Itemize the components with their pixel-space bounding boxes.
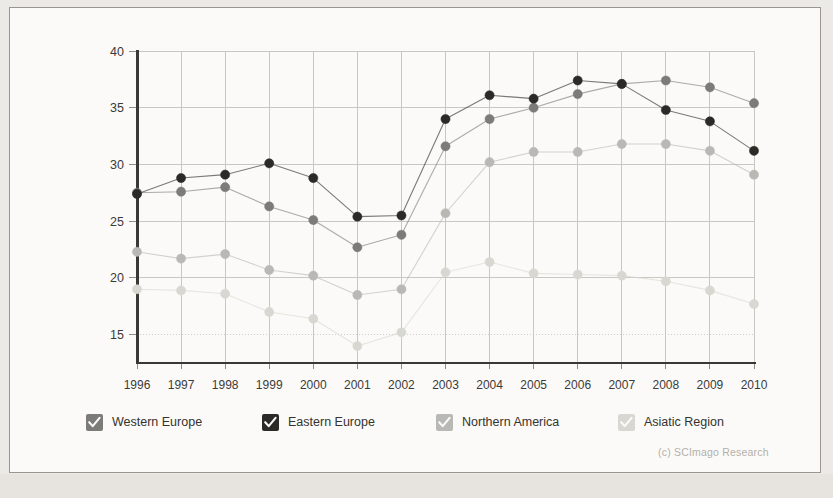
x-axis-tick-label: 1998 bbox=[212, 378, 239, 392]
data-point[interactable] bbox=[265, 202, 274, 211]
x-axis-tick-label: 2000 bbox=[300, 378, 327, 392]
checkbox-checked-icon[interactable] bbox=[436, 414, 453, 431]
data-point[interactable] bbox=[749, 99, 758, 108]
x-axis-tick-label: 1996 bbox=[124, 378, 151, 392]
legend-label: Asiatic Region bbox=[644, 415, 724, 429]
data-point[interactable] bbox=[221, 289, 230, 298]
data-point[interactable] bbox=[749, 146, 758, 155]
checkbox-checked-icon[interactable] bbox=[86, 414, 103, 431]
data-point[interactable] bbox=[617, 271, 626, 280]
data-point[interactable] bbox=[617, 139, 626, 148]
y-axis-tick-label: 15 bbox=[110, 328, 124, 342]
legend-item-asiatic-region[interactable]: Asiatic Region bbox=[618, 410, 724, 434]
x-axis-tick-label: 1999 bbox=[256, 378, 283, 392]
data-point[interactable] bbox=[529, 147, 538, 156]
data-point[interactable] bbox=[221, 170, 230, 179]
y-axis-tick-label: 35 bbox=[110, 101, 124, 115]
data-point[interactable] bbox=[485, 158, 494, 167]
data-point[interactable] bbox=[353, 290, 362, 299]
data-point[interactable] bbox=[661, 277, 670, 286]
legend-item-northern-america[interactable]: Northern America bbox=[436, 410, 559, 434]
data-point[interactable] bbox=[485, 91, 494, 100]
data-point[interactable] bbox=[176, 187, 185, 196]
data-point[interactable] bbox=[441, 209, 450, 218]
data-point[interactable] bbox=[397, 230, 406, 239]
data-point[interactable] bbox=[573, 147, 582, 156]
data-point[interactable] bbox=[705, 286, 714, 295]
data-point[interactable] bbox=[265, 265, 274, 274]
data-point[interactable] bbox=[705, 83, 714, 92]
data-point[interactable] bbox=[221, 183, 230, 192]
x-axis-tick-label: 2009 bbox=[697, 378, 724, 392]
page-bottom-shadow bbox=[0, 474, 833, 498]
legend-label: Eastern Europe bbox=[288, 415, 375, 429]
legend-label: Northern America bbox=[462, 415, 559, 429]
data-point[interactable] bbox=[573, 270, 582, 279]
data-point[interactable] bbox=[176, 173, 185, 182]
data-point[interactable] bbox=[265, 307, 274, 316]
screenshot-root: 1520253035401996199719981999200020012002… bbox=[0, 0, 833, 498]
data-point[interactable] bbox=[573, 90, 582, 99]
data-point[interactable] bbox=[705, 117, 714, 126]
data-point[interactable] bbox=[309, 271, 318, 280]
data-point[interactable] bbox=[441, 268, 450, 277]
data-point[interactable] bbox=[441, 142, 450, 151]
data-point[interactable] bbox=[309, 314, 318, 323]
data-point[interactable] bbox=[176, 254, 185, 263]
data-point[interactable] bbox=[529, 269, 538, 278]
data-point[interactable] bbox=[441, 114, 450, 123]
y-axis-tick-label: 25 bbox=[110, 215, 124, 229]
data-point[interactable] bbox=[132, 285, 141, 294]
data-point[interactable] bbox=[353, 341, 362, 350]
y-axis-tick-label: 40 bbox=[110, 45, 124, 59]
data-point[interactable] bbox=[485, 114, 494, 123]
data-point[interactable] bbox=[309, 215, 318, 224]
checkbox-checked-icon[interactable] bbox=[262, 414, 279, 431]
data-point[interactable] bbox=[353, 212, 362, 221]
data-point[interactable] bbox=[661, 76, 670, 85]
x-axis-tick-label: 2010 bbox=[741, 378, 768, 392]
legend-item-western-europe[interactable]: Western Europe bbox=[86, 410, 202, 434]
x-axis-tick-label: 2002 bbox=[388, 378, 415, 392]
data-point[interactable] bbox=[617, 79, 626, 88]
data-point[interactable] bbox=[661, 105, 670, 114]
legend-label: Western Europe bbox=[112, 415, 202, 429]
data-point[interactable] bbox=[176, 286, 185, 295]
data-point[interactable] bbox=[749, 170, 758, 179]
x-axis-tick-label: 2005 bbox=[520, 378, 547, 392]
data-point[interactable] bbox=[353, 243, 362, 252]
chart-page-frame: 1520253035401996199719981999200020012002… bbox=[9, 7, 821, 473]
y-axis-tick-label: 20 bbox=[110, 271, 124, 285]
data-point[interactable] bbox=[661, 139, 670, 148]
data-point[interactable] bbox=[221, 249, 230, 258]
x-axis-tick-label: 1997 bbox=[168, 378, 195, 392]
data-point[interactable] bbox=[529, 94, 538, 103]
copyright-credit: (c) SCImago Research bbox=[658, 446, 769, 458]
data-point[interactable] bbox=[485, 257, 494, 266]
data-point[interactable] bbox=[265, 159, 274, 168]
data-point[interactable] bbox=[397, 328, 406, 337]
data-point[interactable] bbox=[132, 189, 141, 198]
checkbox-checked-icon[interactable] bbox=[618, 414, 635, 431]
x-axis-tick-label: 2006 bbox=[564, 378, 591, 392]
data-point[interactable] bbox=[573, 76, 582, 85]
data-point[interactable] bbox=[132, 247, 141, 256]
x-axis-tick-label: 2008 bbox=[653, 378, 680, 392]
data-point[interactable] bbox=[397, 211, 406, 220]
line-chart: 1520253035401996199719981999200020012002… bbox=[10, 8, 822, 474]
x-axis-tick-label: 2007 bbox=[608, 378, 635, 392]
x-axis-tick-label: 2003 bbox=[432, 378, 459, 392]
chart-legend: Western EuropeEastern EuropeNorthern Ame… bbox=[86, 410, 786, 436]
y-axis-tick-label: 30 bbox=[110, 158, 124, 172]
x-axis-tick-label: 2001 bbox=[344, 378, 371, 392]
data-point[interactable] bbox=[749, 299, 758, 308]
data-point[interactable] bbox=[397, 285, 406, 294]
chart-canvas: 1520253035401996199719981999200020012002… bbox=[10, 8, 822, 474]
data-point[interactable] bbox=[309, 173, 318, 182]
data-point[interactable] bbox=[529, 103, 538, 112]
x-axis-tick-label: 2004 bbox=[476, 378, 503, 392]
legend-item-eastern-europe[interactable]: Eastern Europe bbox=[262, 410, 375, 434]
data-point[interactable] bbox=[705, 146, 714, 155]
